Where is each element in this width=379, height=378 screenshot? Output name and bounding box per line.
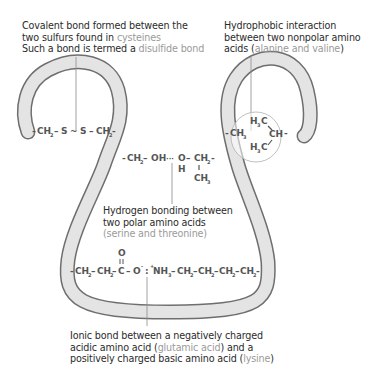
svg-text:S: S <box>80 126 86 136</box>
protein-tertiary-structure-diagram: - CH 2 – S ~ S – CH 2 - - CH 3 H 3 C CH … <box>0 0 379 378</box>
svg-text:–: – <box>171 266 176 276</box>
svg-text:3: 3 <box>243 134 247 140</box>
svg-text:-: - <box>112 126 116 136</box>
svg-text:S: S <box>61 126 67 136</box>
svg-text:-: - <box>284 128 288 138</box>
svg-text:–: – <box>112 266 117 276</box>
svg-text:C: C <box>261 116 268 126</box>
svg-text:C: C <box>261 142 268 152</box>
svg-text:OH: OH <box>151 153 166 163</box>
cysteines-highlight: cysteines <box>117 32 161 43</box>
disulfide-bond-highlight: disulfide bond <box>139 43 205 54</box>
svg-text:CH: CH <box>269 129 283 139</box>
svg-text:O: O <box>133 266 141 276</box>
hydrogen-bond-formula: - CH 2 – OH ∙∙∙ O H – CH 2 - CH 3 <box>122 153 215 185</box>
ionic-bond-formula: O - CH 2 – CH 2 – C – O - : + NH 3 – CH … <box>70 248 260 278</box>
svg-text:NH: NH <box>153 266 168 276</box>
svg-text:O: O <box>118 248 126 258</box>
svg-text:–: – <box>54 126 59 136</box>
hydrophobic-interaction-caption: Hydrophobic interaction between two nonp… <box>224 20 361 55</box>
svg-text:–: – <box>143 153 148 163</box>
hydrogen-bonding-caption: Hydrogen bonding between two polar amino… <box>103 205 233 240</box>
svg-text:-: - <box>141 263 143 269</box>
svg-text:-: - <box>256 266 260 276</box>
alanine-valine-highlight: alanine and valine <box>255 43 340 54</box>
svg-text:-: - <box>70 266 74 276</box>
ionic-bond-caption: Ionic bond between a negatively charged … <box>70 330 274 365</box>
svg-text:H: H <box>178 164 186 174</box>
serine-threonine-highlight: serine and threonine <box>107 228 204 239</box>
svg-text:-: - <box>122 153 126 163</box>
svg-text:C: C <box>118 266 125 276</box>
disulfide-left-bond: - <box>32 126 36 136</box>
svg-text:–: – <box>91 266 96 276</box>
svg-text:–: – <box>89 126 94 136</box>
disulfide-bond-caption: Covalent bond formed between the two sul… <box>22 20 204 55</box>
svg-text:∙∙∙: ∙∙∙ <box>166 155 174 163</box>
svg-text:-: - <box>225 128 229 138</box>
svg-text:–: – <box>186 153 191 163</box>
svg-text:3: 3 <box>207 179 211 185</box>
svg-text:O: O <box>178 153 186 163</box>
lysine-highlight: lysine <box>243 353 270 364</box>
svg-text::: : <box>145 266 149 276</box>
svg-text:–: – <box>126 266 131 276</box>
disulfide-bond-formula: - CH 2 – S ~ S – CH 2 - <box>32 126 116 138</box>
glutamic-acid-highlight: glutamic acid <box>158 342 221 353</box>
svg-text:~: ~ <box>70 126 78 136</box>
svg-text:-: - <box>211 153 215 163</box>
